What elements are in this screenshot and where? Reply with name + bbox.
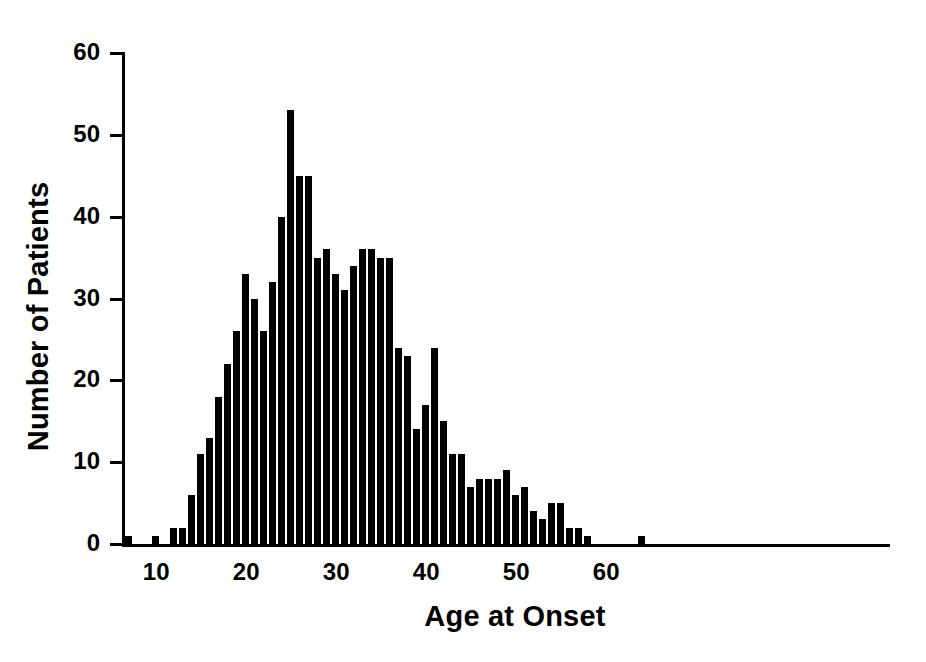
- histogram-bar: [476, 479, 484, 544]
- histogram-bar: [422, 405, 430, 544]
- histogram-bar: [539, 519, 547, 544]
- histogram-bar: [287, 110, 295, 544]
- histogram-bar: [503, 470, 511, 544]
- histogram-bar: [215, 397, 223, 544]
- histogram-bar: [386, 258, 394, 544]
- histogram-bar: [467, 487, 475, 544]
- histogram-bar: [458, 454, 466, 544]
- x-axis-tick-label: 10: [126, 560, 186, 584]
- histogram-bar: [242, 274, 250, 544]
- histogram-bar: [566, 528, 574, 544]
- histogram-bar: [368, 249, 376, 544]
- histogram-bar: [377, 258, 385, 544]
- histogram-figure: Number of Patients 0102030405060 1020304…: [0, 0, 926, 662]
- histogram-bar: [350, 266, 358, 544]
- histogram-bar: [548, 503, 556, 544]
- x-axis-tick-label: 50: [486, 560, 546, 584]
- x-axis-title: Age at Onset: [120, 600, 910, 633]
- histogram-bar: [260, 331, 268, 544]
- histogram-bar: [188, 495, 196, 544]
- histogram-bar: [206, 438, 214, 544]
- histogram-bar: [395, 348, 403, 544]
- histogram-bar: [125, 536, 133, 544]
- histogram-bar: [575, 528, 583, 544]
- histogram-bar: [638, 536, 646, 544]
- histogram-bar: [224, 364, 232, 544]
- histogram-bar: [278, 217, 286, 544]
- x-axis-tick-label: 40: [396, 560, 456, 584]
- histogram-bar: [413, 429, 421, 544]
- histogram-bar: [269, 282, 277, 544]
- x-axis-tick-label: 30: [306, 560, 366, 584]
- histogram-bar: [494, 479, 502, 544]
- histogram-bar: [341, 290, 349, 544]
- histogram-bar: [179, 528, 187, 544]
- histogram-bar: [449, 454, 457, 544]
- histogram-bar: [404, 356, 412, 544]
- x-axis-tick-label: 60: [576, 560, 636, 584]
- histogram-bar: [170, 528, 178, 544]
- histogram-bar: [152, 536, 160, 544]
- histogram-bar: [359, 249, 367, 544]
- bar-series: [0, 0, 926, 545]
- histogram-bar: [485, 479, 493, 544]
- histogram-bar: [584, 536, 592, 544]
- histogram-bar: [251, 299, 259, 545]
- histogram-bar: [557, 503, 565, 544]
- histogram-bar: [512, 495, 520, 544]
- histogram-bar: [530, 511, 538, 544]
- histogram-bar: [233, 331, 241, 544]
- histogram-bar: [332, 274, 340, 544]
- histogram-bar: [314, 258, 322, 544]
- x-axis-tick-label: 20: [216, 560, 276, 584]
- histogram-bar: [431, 348, 439, 544]
- histogram-bar: [440, 421, 448, 544]
- histogram-bar: [521, 487, 529, 544]
- histogram-bar: [323, 249, 331, 544]
- plot-area: 0102030405060 102030405060: [0, 0, 926, 662]
- histogram-bar: [197, 454, 205, 544]
- histogram-bar: [305, 176, 313, 544]
- histogram-bar: [296, 176, 304, 544]
